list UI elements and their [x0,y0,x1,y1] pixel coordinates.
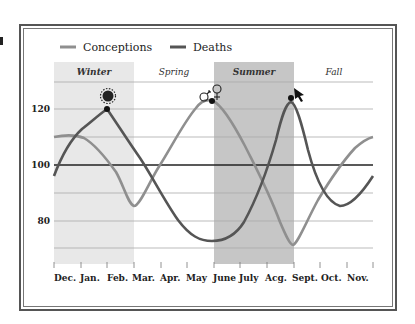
month-june: June [212,273,236,283]
month-dec: Dec. [54,273,76,283]
season-summer: Summer [233,67,277,77]
season-spring: Spring [159,67,190,77]
season-fall: Fall [325,67,343,77]
legend-conceptions-label: Conceptions [83,41,152,54]
month-aug: Acg. [264,273,287,283]
ytick-80: 80 [37,216,50,226]
month-mar: Mar. [132,273,155,283]
month-nov: Nov. [347,273,369,283]
deaths-winter-peak-dot [104,106,110,112]
month-jan: Jan. [79,273,100,283]
winter-shade [54,62,134,264]
conceptions-summer-peak-dot [209,98,215,104]
legend-deaths-label: Deaths [193,41,232,54]
ytick-120: 120 [31,104,50,114]
legend: Conceptions Deaths [60,41,232,54]
month-may: May [186,273,208,283]
season-winter: Winter [77,67,113,77]
ytick-100: 100 [31,160,50,170]
deaths-summer-peak-dot [288,95,294,101]
mosquito-icon [294,88,304,102]
month-sept: Sept. [292,273,318,283]
month-july: July [238,273,259,283]
month-feb: Feb. [107,273,128,283]
month-oct: Oct. [321,273,342,283]
chart-svg: Conceptions Deaths Winter Spring Summer … [0,0,415,324]
month-apr: Apr. [159,273,180,283]
